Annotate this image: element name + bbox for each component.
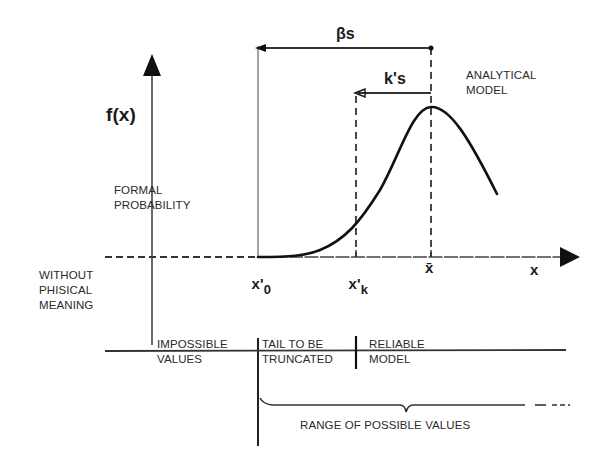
zone-reliable-line1: RELIABLE: [369, 337, 425, 351]
beta-s-label: βs: [336, 27, 355, 41]
range-of-possible-values-label: RANGE OF POSSIBLE VALUES: [300, 418, 470, 432]
without-physical-meaning-line3: MEANING: [39, 298, 93, 312]
without-physical-meaning-line2: PHISICAL: [39, 283, 92, 297]
density-curve: [258, 107, 497, 257]
zone-tail-line1: TAIL TO BE: [262, 337, 323, 351]
x-axis-arrow-icon: [560, 247, 580, 267]
analytical-model-line2: MODEL: [466, 83, 507, 97]
beta-s-dimension: [255, 44, 434, 52]
tick-label-xbar: x̄: [425, 261, 433, 275]
formal-probability-line2: PROBABILITY: [114, 198, 191, 212]
y-axis-arrow-icon: [143, 54, 161, 76]
zone-reliable-line2: MODEL: [369, 352, 410, 366]
range-brace: [260, 398, 570, 412]
formal-probability-line1: FORMAL: [114, 183, 163, 197]
zone-impossible-line1: IMPOSSIBLE: [157, 337, 228, 351]
tick-label-xk: x'k: [340, 263, 368, 292]
k-s-dimension: [355, 89, 431, 97]
zone-impossible-line2: VALUES: [157, 352, 202, 366]
without-physical-meaning-line1: WITHOUT: [39, 268, 93, 282]
x-axis-label: x: [530, 263, 538, 277]
y-axis-label: f(x): [106, 104, 136, 126]
k-s-label: k's: [384, 72, 406, 86]
zone-tail-line2: TRUNCATED: [262, 352, 333, 366]
tick-label-x0: x'0: [243, 263, 271, 292]
analytical-model-line1: ANALYTICAL: [466, 68, 536, 82]
arrow-left-icon: [255, 44, 266, 52]
